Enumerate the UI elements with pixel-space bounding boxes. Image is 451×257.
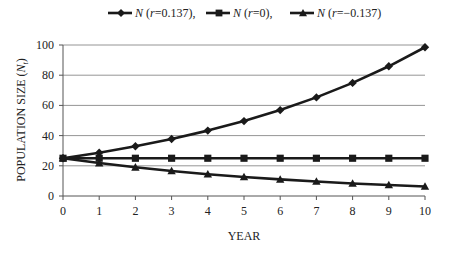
series-lines bbox=[59, 43, 429, 190]
y-tick-label: 0 bbox=[48, 189, 54, 203]
square-marker bbox=[349, 155, 356, 162]
x-tick-label: 9 bbox=[386, 204, 392, 218]
series-square bbox=[59, 155, 428, 162]
x-tick-label: 6 bbox=[277, 204, 283, 218]
square-marker bbox=[277, 155, 284, 162]
x-tick-label: 10 bbox=[419, 204, 431, 218]
x-axis-title: YEAR bbox=[228, 229, 261, 243]
diamond-marker bbox=[204, 126, 212, 134]
x-tick-label: 1 bbox=[96, 204, 102, 218]
diamond-marker bbox=[348, 79, 356, 87]
square-marker bbox=[240, 155, 247, 162]
diamond-marker bbox=[312, 93, 320, 101]
y-tick-label: 60 bbox=[42, 98, 54, 112]
legend-label: N (r=−0.137) bbox=[316, 6, 381, 20]
series-line bbox=[63, 47, 425, 158]
x-tick-label: 7 bbox=[313, 204, 319, 218]
diamond-marker bbox=[117, 9, 125, 17]
y-tick-label: 40 bbox=[42, 129, 54, 143]
square-marker bbox=[313, 155, 320, 162]
diamond-marker bbox=[240, 117, 248, 125]
legend: N (r=0.137),N (r=0),N (r=−0.137) bbox=[108, 6, 381, 20]
legend-entry: N (r=0.137), bbox=[108, 6, 195, 20]
legend-label: N (r=0.137), bbox=[134, 6, 195, 20]
series-line bbox=[63, 158, 425, 186]
x-tick-labels: 012345678910 bbox=[60, 204, 431, 218]
legend-label: N (r=0), bbox=[232, 6, 272, 20]
square-marker bbox=[204, 155, 211, 162]
diamond-marker bbox=[167, 135, 175, 143]
square-marker bbox=[132, 155, 139, 162]
square-marker bbox=[385, 155, 392, 162]
x-tick-label: 0 bbox=[60, 204, 66, 218]
population-chart: N (r=0.137),N (r=0),N (r=−0.137) 0204060… bbox=[0, 0, 451, 257]
y-tick-labels: 020406080100 bbox=[36, 38, 54, 203]
y-tick-label: 80 bbox=[42, 68, 54, 82]
square-marker bbox=[421, 155, 428, 162]
y-axis-title: POPULATION SIZE (Nt) bbox=[14, 58, 30, 182]
y-tick-label: 100 bbox=[36, 38, 54, 52]
diamond-marker bbox=[131, 142, 139, 150]
square-marker bbox=[168, 155, 175, 162]
series-diamond bbox=[59, 43, 429, 162]
x-tick-label: 8 bbox=[350, 204, 356, 218]
legend-entry: N (r=−0.137) bbox=[290, 6, 381, 20]
square-marker bbox=[216, 10, 223, 17]
x-tick-label: 5 bbox=[241, 204, 247, 218]
x-tick-label: 2 bbox=[132, 204, 138, 218]
x-tick-label: 3 bbox=[169, 204, 175, 218]
x-tick-label: 4 bbox=[205, 204, 211, 218]
diamond-marker bbox=[276, 106, 284, 114]
y-tick-label: 20 bbox=[42, 159, 54, 173]
legend-entry: N (r=0), bbox=[206, 6, 272, 20]
